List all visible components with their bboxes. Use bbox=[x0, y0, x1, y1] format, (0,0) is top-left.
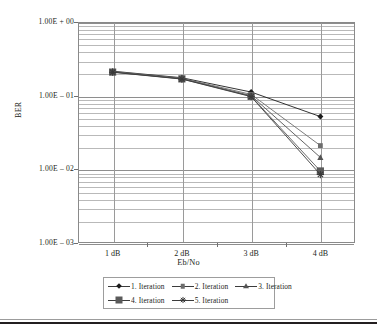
y-axis-tick-label: 1.00E + 00 bbox=[0, 17, 74, 26]
legend-label: 2. Iteration bbox=[195, 282, 229, 291]
y-axis-tick-mark bbox=[74, 22, 78, 23]
legend-entry-iteration-3[interactable]: 3. Iteration bbox=[235, 281, 292, 291]
legend-entry-iteration-5[interactable]: 5. Iteration bbox=[172, 295, 229, 305]
gridline-minor bbox=[79, 113, 354, 114]
legend-label: 1. Iteration bbox=[131, 282, 165, 291]
gridline-vertical bbox=[183, 23, 184, 242]
legend-label: 3. Iteration bbox=[258, 282, 292, 291]
gridline-minor bbox=[79, 119, 354, 120]
y-axis-tick-label: 1.00E – 02 bbox=[0, 164, 74, 173]
gridline-minor bbox=[79, 174, 354, 175]
chart-legend: 1. Iteration 2. Iteration 3. Iteration bbox=[103, 277, 275, 309]
gridline-minor bbox=[79, 108, 354, 109]
x-axis-tick-label: 2 dB bbox=[152, 249, 212, 258]
legend-row-2: 4. Iteration 5. Iteration bbox=[108, 295, 270, 305]
gridline-minor bbox=[79, 187, 354, 188]
gridline-minor bbox=[79, 52, 354, 53]
gridline-minor bbox=[79, 200, 354, 201]
y-axis-title: BER bbox=[14, 102, 23, 118]
legend-entry-iteration-4[interactable]: 4. Iteration bbox=[108, 295, 165, 305]
diamond-marker-icon bbox=[108, 281, 130, 291]
star-glyph bbox=[178, 296, 187, 305]
legend-label: 4. Iteration bbox=[131, 296, 165, 305]
gridline-minor bbox=[79, 193, 354, 194]
gridline-minor bbox=[79, 104, 354, 105]
y-axis-tick-label: 1.00E – 01 bbox=[0, 91, 74, 100]
gridline-vertical bbox=[114, 23, 115, 242]
gridline-major bbox=[79, 170, 354, 171]
legend-row-1: 1. Iteration 2. Iteration 3. Iteration bbox=[108, 281, 270, 291]
x-axis-tick-label: 3 dB bbox=[221, 249, 281, 258]
x-axis-tick-label: 1 dB bbox=[83, 249, 143, 258]
gridline-minor bbox=[79, 100, 354, 101]
y-axis-tick-label: 1.00E – 03 bbox=[0, 238, 74, 247]
legend-entry-iteration-2[interactable]: 2. Iteration bbox=[172, 281, 229, 291]
gridline-major bbox=[79, 97, 354, 98]
gridline-minor bbox=[79, 148, 354, 149]
gridline-minor bbox=[79, 126, 354, 127]
gridline-minor bbox=[79, 177, 354, 178]
gridline-minor bbox=[79, 222, 354, 223]
gridline-minor bbox=[79, 209, 354, 210]
gridline-minor bbox=[79, 135, 354, 136]
square-small-marker-icon bbox=[172, 281, 194, 291]
star-marker-icon bbox=[172, 295, 194, 305]
page-divider-thin bbox=[0, 319, 377, 320]
gridline-minor bbox=[79, 30, 354, 31]
legend-entry-iteration-1[interactable]: 1. Iteration bbox=[108, 281, 165, 291]
x-axis-tick-mark bbox=[147, 243, 148, 247]
y-axis-tick-mark bbox=[74, 169, 78, 170]
triangle-marker-icon bbox=[235, 281, 257, 291]
square-large-marker-icon bbox=[108, 295, 130, 305]
gridline-minor bbox=[79, 62, 354, 63]
y-axis-tick-mark bbox=[74, 96, 78, 97]
gridline-minor bbox=[79, 182, 354, 183]
legend-label: 5. Iteration bbox=[195, 296, 229, 305]
gridline-minor bbox=[79, 34, 354, 35]
x-axis-tick-mark bbox=[286, 243, 287, 247]
x-axis-tick-mark bbox=[217, 243, 218, 247]
y-axis-tick-mark bbox=[74, 243, 78, 244]
x-axis-title: Eb/No bbox=[0, 258, 377, 267]
ber-vs-ebno-chart-figure: 1.00E + 001.00E – 011.00E – 021.00E – 03… bbox=[0, 0, 377, 329]
plot-area bbox=[78, 22, 355, 243]
gridline-minor bbox=[79, 39, 354, 40]
gridline-vertical bbox=[252, 23, 253, 242]
gridline-minor bbox=[79, 74, 354, 75]
page-divider bbox=[0, 322, 377, 324]
gridline-major bbox=[79, 23, 354, 24]
gridline-minor bbox=[79, 26, 354, 27]
gridline-vertical bbox=[321, 23, 322, 242]
x-axis-tick-label: 4 dB bbox=[290, 249, 350, 258]
gridline-minor bbox=[79, 45, 354, 46]
